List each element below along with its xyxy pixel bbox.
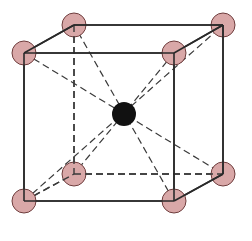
edge-overlay-FTR-BTR [174,25,223,53]
edge-overlay-FTL-BTL [24,25,74,53]
cube-canvas [0,0,252,241]
edge-overlay-FBR-BBR [174,174,223,201]
center-atom-layer [112,102,136,126]
bcc-unit-cell-diagram [0,0,252,241]
body-center-atom [112,102,136,126]
